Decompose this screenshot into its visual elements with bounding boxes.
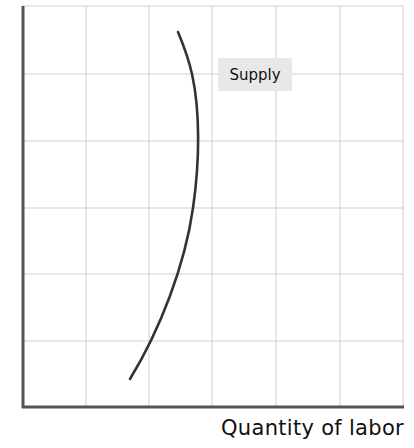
supply-label: Supply [218, 58, 292, 91]
grid [22, 6, 403, 407]
supply-chart [0, 0, 414, 448]
supply-label-text: Supply [229, 66, 280, 84]
supply-curve [130, 32, 198, 379]
x-axis-label: Quantity of labor [221, 416, 404, 440]
